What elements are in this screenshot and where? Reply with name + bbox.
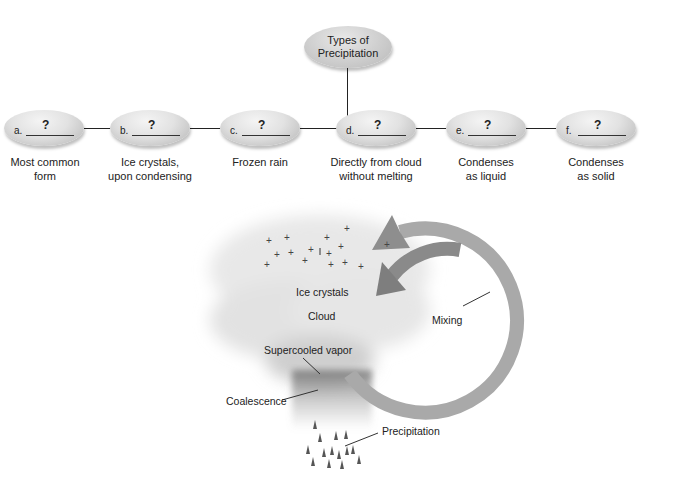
raindrop-icon (357, 455, 361, 464)
ice-crystal-icon: + (274, 250, 280, 260)
ice-crystal-icon: + (288, 248, 294, 258)
label-mixing: Mixing (432, 314, 462, 326)
ice-crystal-icon: + (384, 240, 390, 250)
raindrop-icon (351, 445, 355, 454)
raindrop-icon (313, 420, 317, 429)
ice-crystal-icon: + (342, 258, 348, 268)
ice-crystal-icon: + (324, 233, 330, 243)
ice-crystal-icon: + (308, 245, 314, 255)
raindrop-icon (340, 460, 344, 469)
raindrop-icon (345, 446, 349, 455)
ice-crystal-icon: + (344, 224, 350, 234)
ice-crystal-icon: + (328, 260, 334, 270)
raindrop-icon (330, 446, 334, 455)
label-supercooled-vapor: Supercooled vapor (264, 344, 352, 356)
raindrop-icon (344, 430, 348, 439)
raindrop-icon (322, 448, 326, 457)
label-ice-crystals: Ice crystals (296, 286, 349, 298)
label-coalescence: Coalescence (226, 395, 287, 407)
raindrop-icon (327, 459, 331, 468)
ice-crystal-icon: + (358, 262, 364, 272)
raindrop-icon (337, 450, 341, 459)
ice-crystal-icon: + (326, 249, 332, 259)
ice-crystal-icon: + (338, 242, 344, 252)
ice-crystal-icon: + (266, 236, 272, 246)
raindrop-icon (318, 433, 322, 442)
ice-crystal-icon: + (264, 260, 270, 270)
label-precipitation: Precipitation (382, 425, 440, 437)
raindrop-icon (334, 431, 338, 440)
label-cloud: Cloud (308, 310, 335, 322)
raindrop-icon (311, 457, 315, 466)
cloud-illustration (0, 0, 690, 492)
raindrop-icon (306, 445, 310, 454)
ice-crystal-icon: + (302, 256, 308, 266)
ice-crystal-icon: + (284, 233, 290, 243)
